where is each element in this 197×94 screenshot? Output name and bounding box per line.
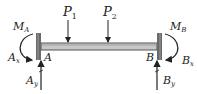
force-ax-label: Ax (7, 51, 20, 65)
moment-b-arrow (165, 34, 178, 60)
point-b-label: B (145, 51, 154, 64)
point-a-label: A (43, 51, 52, 64)
force-ay-arrow (39, 61, 43, 90)
moment-b-label: MB (169, 20, 186, 34)
force-by-label: By (162, 74, 176, 88)
force-ay-label: Ay (25, 74, 39, 88)
wall-a (36, 33, 41, 60)
force-by-arrow (155, 61, 159, 90)
wall-b (157, 33, 162, 60)
force-bx-label: Bx (181, 54, 194, 68)
diagram-svg: P1 P2 MA Ax A Ay MB Bx B By (0, 0, 197, 94)
load-p1-label: P1 (62, 4, 77, 21)
beam-diagram: P1 P2 MA Ax A Ay MB Bx B By (0, 0, 197, 94)
moment-a-label: MA (12, 20, 29, 34)
load-p2-label: P2 (102, 4, 117, 21)
moment-a-arrow (20, 34, 33, 60)
beam (41, 43, 157, 50)
